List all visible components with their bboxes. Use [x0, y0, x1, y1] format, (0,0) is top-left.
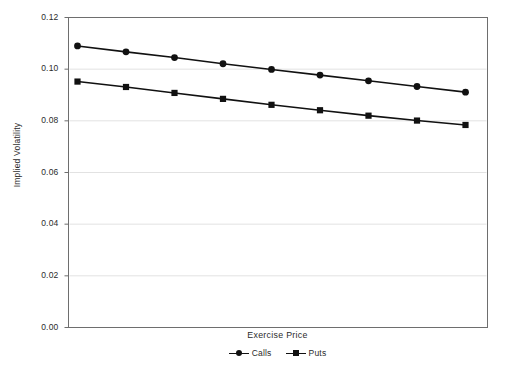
- data-point-calls: [365, 77, 372, 84]
- legend-label: Puts: [309, 348, 327, 358]
- data-point-puts: [317, 107, 323, 113]
- data-point-calls: [462, 89, 469, 96]
- data-point-puts: [171, 90, 177, 96]
- data-point-puts: [414, 117, 420, 123]
- x-axis-title: Exercise Price: [68, 330, 487, 340]
- data-point-calls: [317, 72, 324, 79]
- data-point-calls: [171, 54, 178, 61]
- legend-label: Calls: [252, 348, 272, 358]
- gridlines: [65, 18, 487, 328]
- data-point-puts: [123, 84, 129, 90]
- data-point-calls: [74, 43, 81, 50]
- implied-volatility-chart: Implied Volatility 0.000.020.040.060.080…: [0, 0, 505, 374]
- plot-area: [0, 0, 505, 374]
- data-point-puts: [268, 102, 274, 108]
- data-point-calls: [123, 48, 130, 55]
- data-point-puts: [462, 122, 468, 128]
- data-point-calls: [268, 66, 275, 73]
- data-point-puts: [74, 78, 80, 84]
- series-layer: [74, 43, 469, 129]
- data-point-calls: [414, 83, 421, 90]
- data-point-calls: [220, 60, 227, 67]
- legend-marker-circle-icon: [229, 349, 249, 358]
- legend-entry-calls[interactable]: Calls: [229, 348, 272, 358]
- chart-legend: CallsPuts: [68, 348, 487, 358]
- legend-entry-puts[interactable]: Puts: [286, 348, 327, 358]
- data-point-puts: [220, 96, 226, 102]
- data-point-puts: [365, 113, 371, 119]
- legend-marker-square-icon: [286, 349, 306, 358]
